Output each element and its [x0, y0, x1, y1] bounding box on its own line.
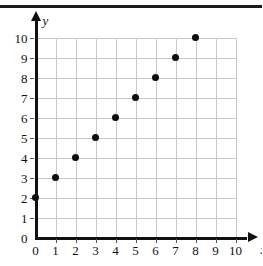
y-tick-label: 2 [6, 192, 28, 205]
gridline-horizontal [36, 198, 236, 199]
y-tick-label: 1 [6, 212, 28, 225]
y-tick-label: 6 [6, 112, 28, 125]
y-tick-label: 5 [6, 132, 28, 145]
y-tick-label: 0 [6, 232, 28, 245]
x-tick-mark [236, 239, 237, 243]
x-tick-mark [76, 239, 77, 243]
gridline-horizontal [36, 138, 236, 139]
y-tick-mark [30, 158, 34, 159]
y-tick-mark [30, 78, 34, 79]
data-point [32, 194, 39, 201]
y-axis-line [35, 20, 38, 238]
x-tick-label: 0 [26, 244, 46, 257]
x-tick-label: 1 [46, 244, 66, 257]
data-point [172, 54, 179, 61]
x-tick-label: 4 [106, 244, 126, 257]
x-tick-label: 7 [166, 244, 186, 257]
gridline-horizontal [36, 58, 236, 59]
y-tick-mark [30, 178, 34, 179]
y-tick-label: 7 [6, 92, 28, 105]
y-tick-mark [30, 138, 34, 139]
x-tick-label: 5 [126, 244, 146, 257]
x-tick-label: 9 [206, 244, 226, 257]
y-tick-mark [30, 38, 34, 39]
x-tick-label: 3 [86, 244, 106, 257]
x-axis-arrow-icon [248, 232, 258, 242]
y-tick-label: 8 [6, 72, 28, 85]
y-tick-label: 9 [6, 52, 28, 65]
gridline-horizontal [36, 218, 236, 219]
y-tick-label: 4 [6, 152, 28, 165]
x-tick-mark [136, 239, 137, 243]
x-axis-label: x [261, 243, 263, 256]
x-tick-mark [116, 239, 117, 243]
gridline-horizontal [36, 118, 236, 119]
x-tick-mark [96, 239, 97, 243]
gridline-horizontal [36, 78, 236, 79]
data-point [152, 74, 159, 81]
y-tick-mark [30, 118, 34, 119]
data-point [112, 114, 119, 121]
x-tick-label: 2 [66, 244, 86, 257]
gridline-horizontal [36, 178, 236, 179]
x-tick-mark [176, 239, 177, 243]
x-tick-label: 6 [146, 244, 166, 257]
x-tick-mark [196, 239, 197, 243]
scatter-plot: yx012345678910012345678910 [0, 0, 262, 266]
y-axis-label: y [43, 14, 49, 27]
y-axis-arrow-icon [31, 11, 41, 21]
x-tick-mark [216, 239, 217, 243]
gridline-horizontal [36, 158, 236, 159]
x-tick-label: 10 [226, 244, 246, 257]
y-tick-label: 10 [6, 32, 28, 45]
data-point [52, 174, 59, 181]
y-tick-mark [30, 218, 34, 219]
gridline-horizontal [36, 38, 236, 39]
data-point [192, 34, 199, 41]
data-point [92, 134, 99, 141]
x-tick-mark [156, 239, 157, 243]
y-tick-label: 3 [6, 172, 28, 185]
y-tick-mark [30, 98, 34, 99]
y-tick-mark [30, 58, 34, 59]
chart-page: yx012345678910012345678910 [0, 0, 262, 266]
data-point [72, 154, 79, 161]
x-tick-mark [56, 239, 57, 243]
data-point [132, 94, 139, 101]
gridline-vertical [236, 38, 237, 238]
x-tick-label: 8 [186, 244, 206, 257]
